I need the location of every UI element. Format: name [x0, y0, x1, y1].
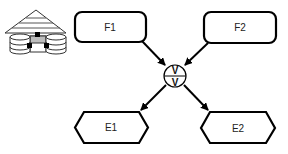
event-e2-label: E2 [232, 123, 245, 134]
event-e2[interactable]: E2 [201, 112, 275, 143]
function-f1-label: F1 [104, 22, 116, 33]
edge-and-e1 [141, 85, 166, 110]
and-connector[interactable]: V V [164, 65, 186, 88]
function-f1[interactable]: F1 [75, 12, 146, 42]
function-f2-label: F2 [234, 22, 246, 33]
edge-f1-and [142, 41, 165, 65]
function-f2[interactable]: F2 [204, 12, 276, 43]
data-warehouse-icon [5, 10, 66, 54]
edge-f2-and [185, 43, 208, 65]
connector-bottom-symbol: V [172, 77, 179, 88]
event-e1[interactable]: E1 [75, 112, 148, 143]
connector-top-symbol: V [172, 65, 179, 76]
edge-and-e2 [184, 85, 208, 110]
diagram-canvas: F1 F2 V V E1 E2 [0, 0, 288, 154]
event-e1-label: E1 [105, 122, 118, 133]
